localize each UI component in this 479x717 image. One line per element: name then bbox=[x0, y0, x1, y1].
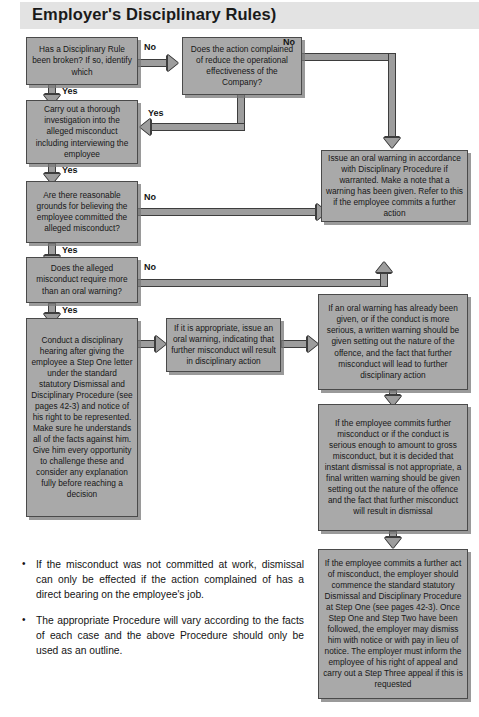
list-item: • If the misconduct was not committed at… bbox=[16, 558, 304, 603]
list-item-text: If the misconduct was not committed at w… bbox=[36, 559, 304, 600]
edge-label-n3-yes: Yes bbox=[62, 165, 78, 175]
node-issue-oral-warning-procedure[interactable]: Issue an oral warning in accordance with… bbox=[321, 150, 468, 222]
notes-list: • If the misconduct was not committed at… bbox=[16, 558, 304, 670]
bullet-marker: • bbox=[22, 557, 26, 572]
node-text: Does the alleged misconduct require more… bbox=[31, 263, 133, 296]
node-has-rule-been-broken[interactable]: Has a Disciplinary Rule been broken? If … bbox=[26, 37, 138, 85]
node-if-appropriate-oral-warning[interactable]: If it is appropriate, issue an oral warn… bbox=[166, 318, 281, 372]
connector-n2-no-v bbox=[388, 53, 396, 140]
connector-n6-no-h bbox=[137, 279, 388, 287]
node-text: If the employee commits a further act of… bbox=[323, 558, 463, 690]
list-item-text: The appropriate Procedure will vary acco… bbox=[36, 615, 304, 656]
edge-label-n2-yes: Yes bbox=[148, 108, 164, 118]
edge-label-n1-yes: Yes bbox=[62, 86, 78, 96]
node-text: If it is appropriate, issue an oral warn… bbox=[171, 323, 276, 367]
node-text: Issue an oral warning in accordance with… bbox=[326, 153, 463, 219]
page-title: Employer's Disciplinary Rules) bbox=[32, 5, 276, 24]
arrowhead-n1-no bbox=[168, 55, 178, 71]
connector-n4-no bbox=[137, 208, 322, 216]
connector-n2-no-h bbox=[300, 53, 396, 61]
arrowhead-n7-n8 bbox=[156, 336, 166, 352]
arrowhead-n10-n11 bbox=[385, 538, 401, 548]
node-require-more-than-oral-warning[interactable]: Does the alleged misconduct require more… bbox=[26, 257, 138, 303]
list-item: • The appropriate Procedure will vary ac… bbox=[16, 614, 304, 659]
edge-label-n2-no: No bbox=[283, 37, 295, 47]
connector-n2-yes-h bbox=[148, 123, 245, 131]
edge-label-n1-no: No bbox=[144, 42, 156, 52]
flowchart-page: Employer's Disciplinary Rules) No Yes No… bbox=[0, 0, 479, 717]
node-text: If the employee commits further miscondu… bbox=[323, 418, 463, 517]
arrowhead-n8-n9 bbox=[308, 336, 318, 352]
arrowhead-n6-no bbox=[376, 262, 392, 272]
connector-n6-no-v bbox=[380, 272, 388, 287]
node-reasonable-grounds[interactable]: Are there reasonable grounds for believi… bbox=[26, 181, 138, 243]
node-final-written-warning[interactable]: If the employee commits further miscondu… bbox=[318, 404, 468, 531]
node-conduct-disciplinary-hearing[interactable]: Conduct a disciplinary hearing after giv… bbox=[26, 318, 138, 517]
node-carry-out-investigation[interactable]: Carry out a thorough investigation into … bbox=[26, 100, 138, 164]
edge-label-n6-no: No bbox=[144, 262, 156, 272]
arrowhead-n2-no bbox=[384, 138, 400, 148]
node-text: Conduct a disciplinary hearing after giv… bbox=[31, 335, 133, 500]
node-text: Does the action complained of reduce the… bbox=[187, 44, 297, 88]
edge-label-n4-no: No bbox=[144, 192, 156, 202]
node-text: Carry out a thorough investigation into … bbox=[31, 104, 133, 159]
bullet-marker: • bbox=[22, 613, 26, 628]
edge-label-n4-yes: Yes bbox=[62, 245, 78, 255]
node-written-warning[interactable]: If an oral warning has already been give… bbox=[318, 294, 468, 390]
node-text: If an oral warning has already been give… bbox=[323, 303, 463, 380]
node-text: Has a Disciplinary Rule been broken? If … bbox=[31, 44, 133, 77]
edge-label-n6-yes: Yes bbox=[62, 305, 78, 315]
node-text: Are there reasonable grounds for believi… bbox=[31, 190, 133, 234]
node-dismissal-step-one[interactable]: If the employee commits a further act of… bbox=[318, 549, 468, 699]
arrowhead-n2-yes bbox=[140, 119, 150, 135]
